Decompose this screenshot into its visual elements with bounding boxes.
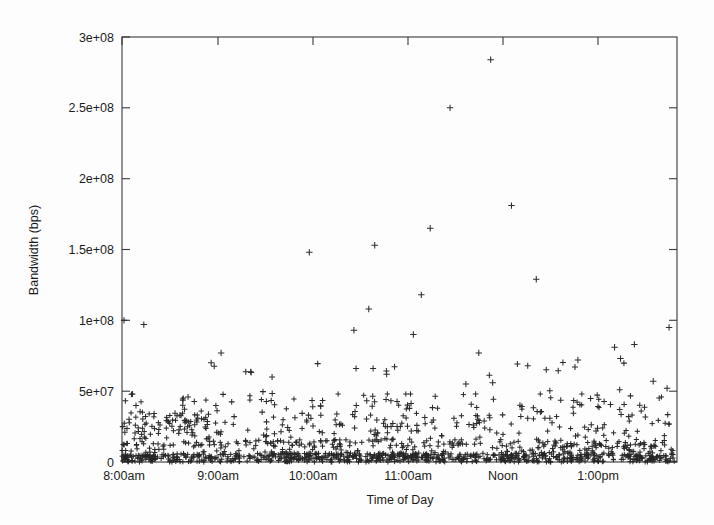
y-tick-label: 5e+07 bbox=[79, 385, 114, 399]
y-tick-label: 1.5e+08 bbox=[68, 243, 114, 257]
x-tick-label: 9:00am bbox=[197, 469, 239, 483]
x-tick-label: 10:00am bbox=[289, 469, 338, 483]
y-tick-label: 2.5e+08 bbox=[68, 101, 114, 115]
x-tick-label: 8:00am bbox=[103, 469, 145, 483]
y-tick-label: 3e+08 bbox=[79, 31, 114, 45]
x-tick-label: Noon bbox=[488, 469, 518, 483]
scatter-plot: 0 5e+07 1e+08 1.5e+08 2e+08 2.5e+08 3e+0… bbox=[0, 0, 714, 525]
y-axis-title: Bandwidth (bps) bbox=[27, 205, 41, 295]
x-axis-title: Time of Day bbox=[367, 493, 435, 507]
y-tick-label: 1e+08 bbox=[79, 314, 114, 328]
x-tick-label: 1:00pm bbox=[577, 469, 619, 483]
y-tick-label: 0 bbox=[107, 456, 114, 470]
chart-page: 0 5e+07 1e+08 1.5e+08 2e+08 2.5e+08 3e+0… bbox=[0, 0, 714, 525]
y-tick-label: 2e+08 bbox=[79, 172, 114, 186]
x-tick-label: 11:00am bbox=[384, 469, 432, 483]
